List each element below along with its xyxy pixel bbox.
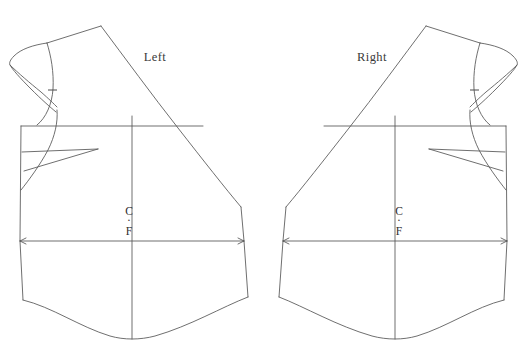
pattern-sheet: Left C · F xyxy=(0,0,527,354)
piece-label-left: Left xyxy=(144,50,167,64)
center-front-label-f-right: F xyxy=(396,225,402,237)
sheet-background xyxy=(0,0,527,354)
piece-label-right: Right xyxy=(357,50,387,64)
pattern-drawing: Left C · F xyxy=(0,0,527,354)
center-front-label-f-left: F xyxy=(126,225,132,237)
